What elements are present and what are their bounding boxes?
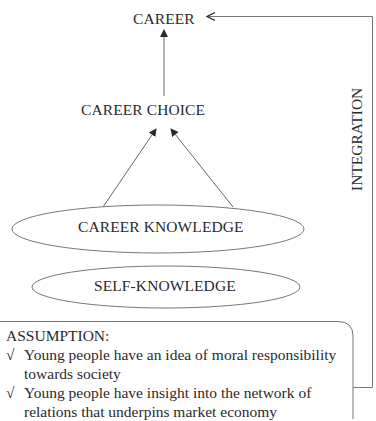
assumption-item: √Young people have insight into the netw… <box>6 383 351 421</box>
check-icon: √ <box>6 383 24 402</box>
assumption-item-text: Young people have an idea of moral respo… <box>24 346 336 382</box>
node-career: CAREER <box>133 10 195 28</box>
node-self-knowledge: SELF-KNOWLEDGE <box>94 277 236 295</box>
assumption-title: ASSUMPTION: <box>6 326 351 345</box>
assumption-item-text: Young people have insight into the netwo… <box>24 384 311 420</box>
check-icon: √ <box>6 345 24 364</box>
assumption-box: ASSUMPTION: √Young people have an idea o… <box>6 326 351 421</box>
arrow-knowledge-to-choice-right <box>171 129 233 207</box>
assumption-item: √Young people have an idea of moral resp… <box>6 345 351 383</box>
integration-label: INTEGRATION <box>348 91 366 191</box>
arrow-knowledge-to-choice-left <box>103 129 156 207</box>
node-career-knowledge: CAREER KNOWLEDGE <box>78 218 244 236</box>
node-career-choice: CAREER CHOICE <box>81 101 205 119</box>
